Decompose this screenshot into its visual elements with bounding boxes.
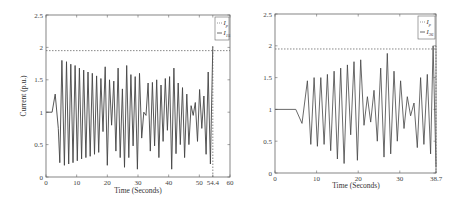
x-tick-label: 30 [396,175,404,183]
x-tick-label: 38.7 [430,175,443,183]
left-current-line [46,46,213,169]
y-tick-label: 0.5 [34,141,43,149]
x-tick-label: 10 [313,175,321,183]
x-tick-label: 50 [196,179,204,187]
y-tick-label: 1 [40,109,44,117]
y-tick-label: 0 [40,174,44,182]
y-tick-label: 0.5 [263,138,272,146]
x-tick-label: 10 [73,179,81,187]
y-tick-label: 2 [269,42,273,50]
x-tick-label: 0 [44,179,48,187]
left-legend: Ip I15 [215,17,231,40]
left-y-axis-label: Current (p.u.) [19,75,28,117]
left-x-axis-label: Time (Seconds) [114,186,162,195]
figure: 0102030405054.46000.511.522.5 Time (Seco… [0,0,461,204]
y-tick-label: 1.5 [263,74,272,82]
right-current-line [275,46,436,167]
y-tick-label: 0 [269,170,273,178]
x-tick-label: 60 [227,179,235,187]
y-tick-label: 2.5 [34,12,43,20]
y-tick-label: 1.5 [34,76,43,84]
right-axis-ticks: 010203038.700.511.522.5 [263,11,442,184]
x-tick-label: 0 [273,175,277,183]
x-tick-label: 20 [104,179,112,187]
right-plot-frame [275,14,436,173]
y-tick-label: 2 [40,44,44,52]
right-legend: Ip I36 [418,16,435,39]
y-tick-label: 1 [269,106,273,114]
y-tick-label: 2.5 [263,11,272,19]
right-chart: 010203038.700.511.522.5 Time (Seconds) I… [263,11,442,191]
right-x-axis-label: Time (Seconds) [332,181,380,190]
x-tick-label: 54.4 [207,179,220,187]
left-chart: 0102030405054.46000.511.522.5 Time (Seco… [19,12,234,196]
x-tick-label: 40 [165,179,173,187]
